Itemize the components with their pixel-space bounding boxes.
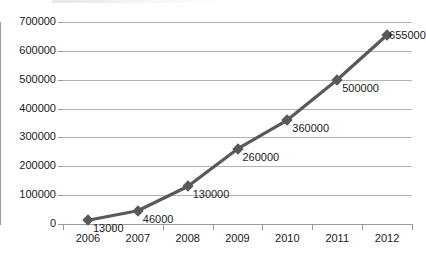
y-axis-tick — [58, 137, 63, 138]
x-axis-tick — [362, 225, 363, 230]
x-axis-tick-label: 2012 — [361, 232, 413, 244]
x-axis-tick — [163, 225, 164, 230]
data-point-label: 360000 — [292, 123, 329, 134]
data-point-label: 13000 — [93, 223, 124, 234]
x-axis-tick-label: 2011 — [311, 232, 363, 244]
y-axis-tick — [58, 109, 63, 110]
y-axis-tick — [58, 22, 63, 23]
x-axis-tick — [312, 225, 313, 230]
data-point-label: 130000 — [193, 189, 230, 200]
y-axis-tick — [58, 166, 63, 167]
x-axis-tick — [262, 225, 263, 230]
y-axis-tick — [58, 51, 63, 52]
y-axis-tick — [58, 80, 63, 81]
x-axis-tick-label: 2009 — [212, 232, 264, 244]
y-axis-tick — [58, 195, 63, 196]
x-axis-tick — [412, 225, 413, 230]
x-axis-tick-label: 2010 — [261, 232, 313, 244]
data-point-label: 260000 — [243, 152, 280, 163]
x-axis-tick — [213, 225, 214, 230]
data-point-label: 655000 — [389, 30, 426, 41]
data-point-label: 500000 — [342, 83, 379, 94]
x-axis-tick — [63, 225, 64, 230]
data-point-label: 46000 — [143, 214, 174, 225]
x-axis-tick-label: 2008 — [162, 232, 214, 244]
x-axis-tick — [113, 225, 114, 230]
